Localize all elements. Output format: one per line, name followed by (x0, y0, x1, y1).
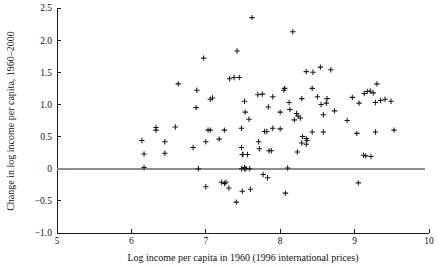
scatter-point (328, 67, 333, 72)
scatter-point (270, 126, 275, 131)
scatter-point (354, 131, 359, 136)
y-axis-title: Change in log income per capita, 1960–20… (5, 31, 16, 211)
scatter-point (249, 15, 254, 20)
scatter-point (227, 76, 232, 81)
scatter-point (324, 96, 329, 101)
scatter-point (368, 154, 373, 159)
scatter-point (242, 99, 247, 104)
scatter-point (216, 136, 221, 141)
y-tick-label: 2.5 (40, 3, 52, 13)
scatter-point (203, 184, 208, 189)
scatter-point (356, 180, 361, 185)
scatter-point (321, 112, 326, 117)
scatter-point (201, 55, 206, 60)
scatter-point (193, 105, 198, 110)
scatter-point (315, 94, 320, 99)
scatter-point (270, 94, 275, 99)
scatter-point (257, 146, 262, 151)
scatter-point (299, 140, 304, 145)
scatter-point (256, 139, 261, 144)
scatter-point (309, 129, 314, 134)
scatter-point (162, 151, 167, 156)
scatter-point (234, 199, 239, 204)
scatter-point (332, 108, 337, 113)
scatter-point (292, 117, 297, 122)
scatter-point (318, 102, 323, 107)
scatter-point (278, 126, 283, 131)
scatter-point (283, 190, 288, 195)
x-tick-label: 6 (129, 236, 134, 246)
scatter-point (295, 149, 300, 154)
x-tick-label: 5 (55, 236, 60, 246)
scatter-point (173, 124, 178, 129)
scatter-point (310, 70, 315, 75)
scatter-point (391, 127, 396, 132)
axis-tick-marks (57, 8, 429, 233)
y-tick-label: 0.5 (40, 132, 52, 142)
scatter-point (260, 91, 265, 96)
scatter-point (245, 152, 250, 157)
x-tick-label: 8 (278, 236, 283, 246)
scatter-point (255, 92, 260, 97)
scatter-point (373, 100, 378, 105)
y-tick-label: 1.5 (40, 68, 52, 78)
scatter-point (374, 81, 379, 86)
y-tick-label: 1.0 (40, 100, 52, 110)
scatter-point (239, 145, 244, 150)
x-tick-label: 10 (424, 236, 434, 246)
scatter-plot-svg: −1.0−0.500.51.01.52.02.5 5678910 Change … (0, 0, 439, 266)
scatter-point (278, 109, 283, 114)
chart-page: −1.0−0.500.51.01.52.02.5 5678910 Change … (0, 0, 439, 266)
scatter-plot-figure: −1.0−0.500.51.01.52.02.5 5678910 Change … (0, 0, 439, 266)
scatter-point (304, 142, 309, 147)
scatter-point (290, 29, 295, 34)
y-tick-label: −0.5 (35, 196, 52, 206)
scatter-point (237, 75, 242, 80)
scatter-point (378, 98, 383, 103)
scatter-point (309, 86, 314, 91)
x-tick-label: 7 (203, 236, 208, 246)
scatter-point (141, 151, 146, 156)
scatter-point (247, 166, 252, 171)
scatter-point (243, 109, 248, 114)
x-axis-tick-labels: 5678910 (55, 236, 434, 246)
x-axis-title: Log income per capita in 1960 (1996 inte… (127, 252, 358, 264)
scatter-point (203, 139, 208, 144)
scatter-point (260, 172, 265, 177)
data-point-markers (139, 15, 397, 205)
scatter-point (382, 97, 387, 102)
scatter-point (196, 166, 201, 171)
scatter-point (304, 69, 309, 74)
scatter-point (194, 88, 199, 93)
scatter-point (299, 96, 304, 101)
scatter-point (285, 165, 290, 170)
scatter-point (373, 129, 378, 134)
y-tick-label: −1.0 (35, 228, 52, 238)
scatter-point (321, 129, 326, 134)
scatter-point (324, 100, 329, 105)
scatter-point (287, 107, 292, 112)
scatter-point (239, 126, 244, 131)
scatter-point (265, 175, 270, 180)
scatter-point (246, 117, 251, 122)
scatter-point (139, 138, 144, 143)
scatter-point (162, 139, 167, 144)
scatter-point (226, 185, 231, 190)
scatter-point (248, 187, 253, 192)
scatter-point (234, 48, 239, 53)
scatter-point (356, 100, 361, 105)
scatter-point (176, 81, 181, 86)
scatter-point (388, 99, 393, 104)
scatter-point (153, 127, 158, 132)
scatter-point (350, 95, 355, 100)
scatter-point (266, 104, 271, 109)
scatter-point (318, 64, 323, 69)
scatter-point (286, 100, 291, 105)
scatter-point (240, 189, 245, 194)
scatter-point (344, 118, 349, 123)
y-tick-label: 0 (47, 164, 52, 174)
scatter-point (222, 127, 227, 132)
x-tick-label: 9 (352, 236, 357, 246)
y-axis-tick-labels: −1.0−0.500.51.01.52.02.5 (35, 3, 52, 238)
scatter-point (231, 75, 236, 80)
